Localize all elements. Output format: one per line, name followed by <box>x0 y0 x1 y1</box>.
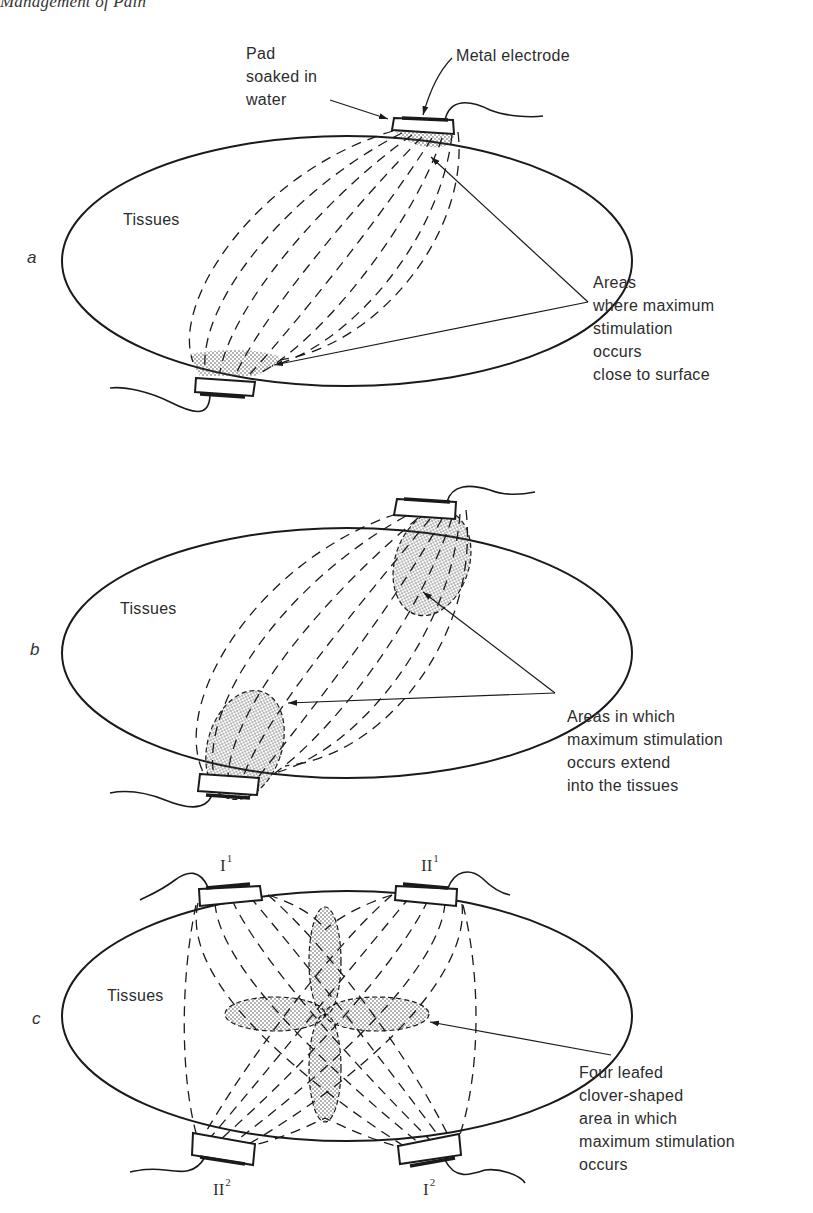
pad-annotation: Pad soaked in water <box>246 42 317 111</box>
panel-b <box>62 486 632 809</box>
electrode-II1 <box>395 872 510 906</box>
metal-electrode-annotation: Metal electrode <box>456 44 570 67</box>
tissue-ellipse-b <box>62 528 632 778</box>
electrode-bottom-a <box>110 378 255 412</box>
electrode-top-b <box>394 486 535 519</box>
electrode-I1 <box>140 873 262 906</box>
tissues-label-a: Tissues <box>123 211 180 229</box>
electrode-bottom-b <box>110 774 259 807</box>
electrode-label-I2: I2 <box>423 1178 435 1200</box>
panel-label-b: b <box>30 640 39 660</box>
areas-surface-annotation: Areas where maximum stimulation occurs c… <box>593 271 714 386</box>
tissues-label-b: Tissues <box>120 600 177 618</box>
tissue-ellipse-a <box>62 136 632 386</box>
electrode-top-a <box>392 103 543 134</box>
panel-a <box>62 58 632 412</box>
panel-label-c: c <box>32 1009 41 1029</box>
panel-label-a: a <box>27 248 36 268</box>
tissues-label-c: Tissues <box>107 987 164 1005</box>
electrode-I2 <box>398 1134 525 1183</box>
electrode-label-I1: I1 <box>220 854 232 876</box>
stimulation-area-bottom-a <box>190 350 280 376</box>
electrode-label-II2: II2 <box>213 1178 231 1200</box>
panel-c <box>62 872 632 1183</box>
stimulation-area-top-b <box>380 500 484 626</box>
areas-extend-annotation: Areas in which maximum stimulation occur… <box>567 705 723 797</box>
clover-area <box>225 907 429 1122</box>
current-lines-a <box>189 131 459 374</box>
electrode-II2 <box>130 1133 255 1172</box>
electrode-label-II1: II1 <box>421 854 439 876</box>
clover-annotation: Four leafed clover-shaped area in which … <box>579 1061 735 1176</box>
